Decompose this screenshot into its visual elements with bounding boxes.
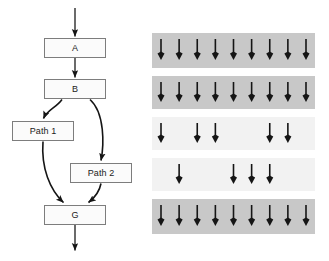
down-arrow-icon <box>158 123 165 143</box>
down-arrow-icon <box>212 82 219 102</box>
down-arrow-icon <box>212 123 219 143</box>
flowchart-panel: A B Path 1 Path 2 G <box>0 0 150 261</box>
band-arrow-group <box>152 158 315 191</box>
down-arrow-icon <box>194 123 201 143</box>
arrow-band <box>152 33 315 68</box>
down-arrow-icon <box>284 82 291 102</box>
node-b[interactable]: B <box>44 79 106 99</box>
down-arrow-icon <box>284 205 291 226</box>
down-arrow-icon <box>230 164 237 184</box>
edge-path2-to-g <box>89 184 102 203</box>
node-path-2[interactable]: Path 2 <box>70 163 132 183</box>
edge-path1-to-g <box>43 142 64 203</box>
down-arrow-icon <box>266 82 273 102</box>
down-arrow-icon <box>176 39 183 60</box>
node-a-label: A <box>72 44 78 53</box>
node-g[interactable]: G <box>44 205 106 225</box>
down-arrow-icon <box>158 205 165 226</box>
down-arrow-icon <box>266 39 273 60</box>
down-arrow-icon <box>248 205 255 226</box>
node-g-label: G <box>71 211 78 220</box>
diagram-canvas: A B Path 1 Path 2 G <box>0 0 329 261</box>
node-path-2-label: Path 2 <box>88 169 115 178</box>
edge-b-to-path1 <box>44 100 63 119</box>
down-arrow-icon <box>194 39 201 60</box>
arrow-bands-panel <box>150 0 329 261</box>
band-arrow-group <box>152 33 315 68</box>
arrow-band <box>152 117 315 150</box>
down-arrow-icon <box>158 39 165 60</box>
down-arrow-icon <box>303 82 310 102</box>
node-a[interactable]: A <box>44 38 106 58</box>
down-arrow-icon <box>230 205 237 226</box>
down-arrow-icon <box>230 39 237 60</box>
down-arrow-icon <box>230 82 237 102</box>
down-arrow-icon <box>248 164 255 184</box>
band-arrow-group <box>152 199 315 234</box>
node-b-label: B <box>72 85 78 94</box>
node-path-1[interactable]: Path 1 <box>12 121 74 141</box>
band-arrow-group <box>152 76 315 109</box>
down-arrow-icon <box>303 205 310 226</box>
down-arrow-icon <box>248 39 255 60</box>
down-arrow-icon <box>158 82 165 102</box>
arrow-band <box>152 76 315 109</box>
arrow-band <box>152 158 315 191</box>
band-arrow-group <box>152 117 315 150</box>
arrow-band <box>152 199 315 234</box>
down-arrow-icon <box>176 164 183 184</box>
down-arrow-icon <box>266 123 273 143</box>
edge-b-to-path2 <box>90 100 103 161</box>
down-arrow-icon <box>176 82 183 102</box>
down-arrow-icon <box>266 205 273 226</box>
down-arrow-icon <box>284 39 291 60</box>
down-arrow-icon <box>212 205 219 226</box>
down-arrow-icon <box>212 39 219 60</box>
down-arrow-icon <box>303 39 310 60</box>
down-arrow-icon <box>194 82 201 102</box>
down-arrow-icon <box>194 205 201 226</box>
down-arrow-icon <box>284 123 291 143</box>
down-arrow-icon <box>266 164 273 184</box>
down-arrow-icon <box>176 205 183 226</box>
down-arrow-icon <box>248 82 255 102</box>
node-path-1-label: Path 1 <box>30 127 57 136</box>
